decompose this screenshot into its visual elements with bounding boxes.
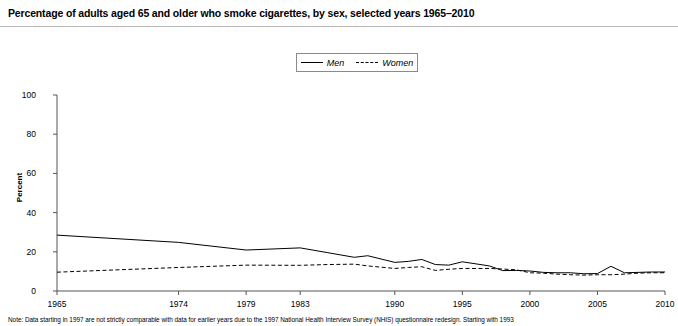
chart-series bbox=[57, 235, 665, 275]
y-tick-label: 20 bbox=[12, 248, 36, 257]
x-tick-label: 1990 bbox=[385, 300, 404, 309]
y-tick-label: 100 bbox=[12, 91, 36, 100]
chart-note: Note: Data starting in 1997 are not stri… bbox=[8, 316, 514, 324]
x-tick-label: 2005 bbox=[588, 300, 607, 309]
plot-area: Percent 020406080100 1965197419791983199… bbox=[0, 0, 678, 326]
y-tick-label: 0 bbox=[12, 287, 36, 296]
x-tick-label: 1983 bbox=[291, 300, 310, 309]
y-tick-label: 60 bbox=[12, 169, 36, 178]
line-chart-canvas bbox=[0, 0, 678, 326]
x-tick-label: 1974 bbox=[169, 300, 188, 309]
y-tick-label: 80 bbox=[12, 130, 36, 139]
x-tick-label: 1995 bbox=[453, 300, 472, 309]
x-tick-label: 1965 bbox=[48, 300, 67, 309]
series-line-men bbox=[57, 235, 665, 274]
x-tick-label: 1979 bbox=[237, 300, 256, 309]
y-tick-labels: 020406080100 bbox=[10, 0, 36, 326]
x-tick-label: 2010 bbox=[656, 300, 675, 309]
chart-page: Percentage of adults aged 65 and older w… bbox=[0, 0, 678, 326]
x-tick-label: 2000 bbox=[520, 300, 539, 309]
y-tick-label: 40 bbox=[12, 209, 36, 218]
